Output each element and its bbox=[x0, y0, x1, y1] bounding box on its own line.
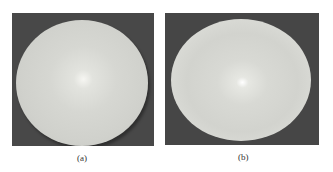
disc-image-b bbox=[171, 19, 311, 141]
caption-a: (a) bbox=[77, 153, 87, 163]
figure-panel-a bbox=[12, 13, 154, 146]
caption-b: (b) bbox=[238, 152, 249, 162]
figure-panel-b bbox=[165, 13, 319, 145]
disc-image-a bbox=[16, 20, 148, 146]
